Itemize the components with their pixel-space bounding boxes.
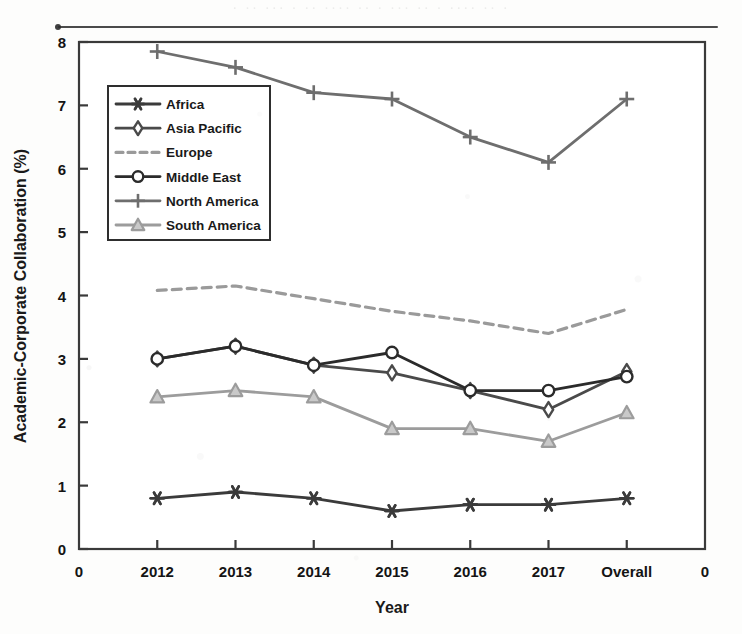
circle-marker (621, 371, 632, 382)
x-tick-label-2012: 2012 (141, 563, 174, 580)
x-tick-label-Overall: Overall (601, 563, 652, 580)
x-tick-label-0: 0 (701, 563, 709, 580)
chart-figure: 012345678 0201220132014201520162017Overa… (0, 0, 742, 634)
legend-item-south-america[interactable]: South America (116, 218, 261, 233)
legend-label-south-america: South America (166, 218, 261, 233)
legend-label-north-america: North America (166, 194, 259, 209)
legend-label-asia-pacific: Asia Pacific (166, 121, 242, 136)
circle-marker (386, 347, 397, 358)
y-tick-label-7: 7 (58, 97, 66, 114)
x-axis-label: Year (375, 599, 409, 616)
chart-legend[interactable]: AfricaAsia PacificEuropeMiddle EastNorth… (108, 86, 270, 240)
y-tick-label-1: 1 (58, 478, 66, 495)
legend-label-africa: Africa (166, 97, 205, 112)
y-tick-label-5: 5 (58, 224, 66, 241)
x-tick-label-2014: 2014 (297, 563, 331, 580)
x-tick-label-2017: 2017 (532, 563, 565, 580)
x-tick-label-2013: 2013 (219, 563, 252, 580)
x-tick-label-2016: 2016 (454, 563, 487, 580)
y-tick-label-3: 3 (58, 351, 66, 368)
circle-marker (133, 171, 144, 182)
circle-marker (308, 359, 319, 370)
circle-marker (230, 340, 241, 351)
circle-marker (152, 353, 163, 364)
legend-item-north-america[interactable]: North America (116, 194, 259, 209)
y-tick-label-6: 6 (58, 161, 66, 178)
y-axis-label: Academic-Corporate Collaboration (%) (12, 149, 29, 443)
y-tick-label-4: 4 (58, 288, 67, 305)
y-tick-label-2: 2 (58, 414, 66, 431)
legend-label-europe: Europe (166, 145, 213, 160)
legend-label-middle-east: Middle East (166, 170, 242, 185)
circle-marker (543, 385, 554, 396)
x-tick-label-0: 0 (75, 563, 83, 580)
y-tick-label-0: 0 (58, 541, 66, 558)
y-tick-label-8: 8 (58, 34, 66, 51)
x-tick-label-2015: 2015 (375, 563, 408, 580)
line-chart: 012345678 0201220132014201520162017Overa… (0, 0, 742, 634)
circle-marker (465, 385, 476, 396)
